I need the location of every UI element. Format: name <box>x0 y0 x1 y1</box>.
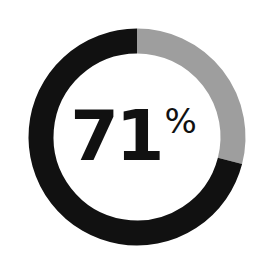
center-label: 71 % <box>0 0 267 268</box>
donut-chart: 71 % <box>0 0 267 268</box>
percent-value: 71 <box>70 101 161 171</box>
percent-sign: % <box>165 104 197 138</box>
